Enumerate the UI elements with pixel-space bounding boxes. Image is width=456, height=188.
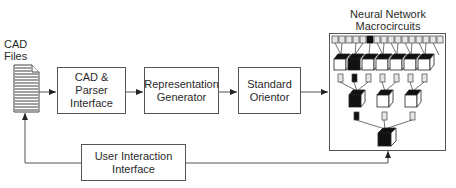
document-icon: [13, 64, 41, 114]
cad-files-label-line2: Files: [4, 50, 27, 62]
standard-orientor-line2: Orientor: [247, 91, 292, 104]
user-interaction-line2: Interface: [95, 163, 173, 176]
representation-generator-line2: Generator: [144, 91, 219, 104]
edge-user-to-files: [25, 113, 81, 163]
neural-network-title-line2: Macrocircuits: [340, 20, 436, 32]
cad-parser-interface-box: CAD & Parser Interface: [57, 67, 126, 114]
standard-orientor-line1: Standard: [247, 78, 292, 91]
cad-parser-line2: Interface: [58, 97, 125, 110]
neural-network-title-line1: Neural Network: [340, 8, 436, 20]
cad-files-label: CAD Files: [4, 38, 27, 62]
user-interaction-interface-box: User Interaction Interface: [81, 144, 186, 181]
edge-user-to-network: [185, 151, 388, 163]
output-module: [378, 128, 396, 146]
user-interaction-line1: User Interaction: [95, 150, 173, 163]
layer2-modules: [349, 90, 421, 107]
standard-orientor-box: Standard Orientor: [238, 67, 301, 114]
neural-network-macrocircuits: [329, 33, 447, 152]
layer1-modules: [334, 54, 434, 70]
cad-files-label-line1: CAD: [4, 38, 27, 50]
representation-generator-box: Representation Generator: [144, 67, 219, 114]
cad-parser-line1: CAD & Parser: [58, 71, 125, 97]
neural-network-title: Neural Network Macrocircuits: [340, 8, 436, 32]
representation-generator-line1: Representation: [144, 78, 219, 91]
